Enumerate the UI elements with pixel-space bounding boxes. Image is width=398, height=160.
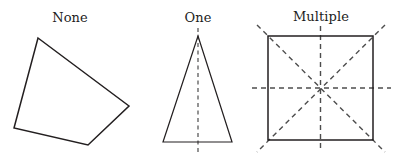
quadrilateral-outline bbox=[14, 38, 129, 145]
shape-irregular-quadrilateral bbox=[0, 0, 160, 160]
symmetry-figure: None One Multiple bbox=[0, 0, 398, 160]
shape-square bbox=[240, 0, 398, 160]
